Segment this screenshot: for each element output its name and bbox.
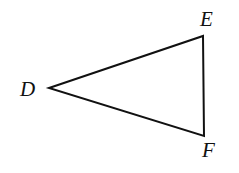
triangle-diagram: D E F xyxy=(0,0,239,173)
triangle-def xyxy=(49,36,204,136)
vertex-label-d: D xyxy=(19,77,35,101)
vertex-label-f: F xyxy=(201,138,215,162)
vertex-label-e: E xyxy=(199,7,213,31)
